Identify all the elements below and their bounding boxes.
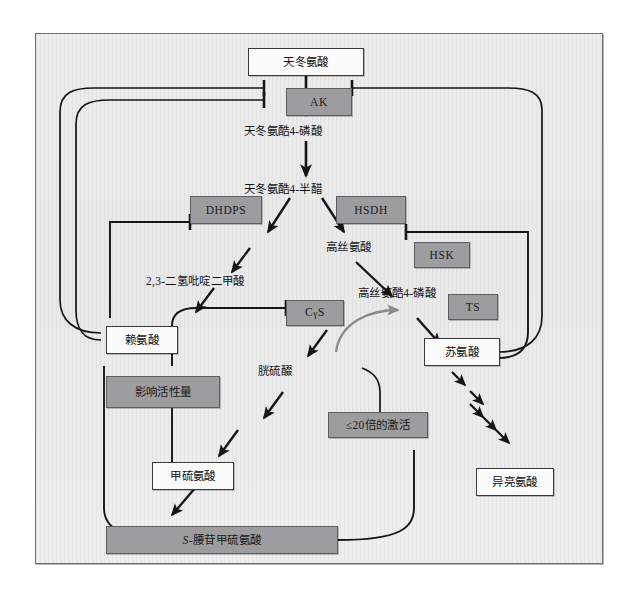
enzyme-ts[interactable]: TS [448,294,498,320]
diagram-canvas: 天冬氨酸 AK 天冬氨酷4-磷酸 天冬氨酷4-半醋 DHDPS HSDH 2,3… [0,0,628,589]
enzyme-dhdps[interactable]: DHDPS [190,196,262,224]
annotation-activity-amount-label: 影响活性量 [135,386,192,398]
annotation-activation-fold[interactable]: ≤20倍的激活 [328,412,428,438]
cgs-suffix: S [318,306,325,318]
enzyme-cgs[interactable]: CγS [286,300,344,326]
intermediate-asp4p: 天冬氨酷4-磷酸 [244,122,322,138]
metabolite-sam-label: S-腰苷甲硫氨酸 [183,534,262,546]
intermediate-hsp: 高丝氨酷4-磷酸 [358,284,436,300]
metabolite-sam[interactable]: S-腰苷甲硫氨酸 [106,526,338,554]
metabolite-threonine-label: 苏氨酸 [445,346,479,358]
intermediate-cystathionine: 胱硫醊 [258,362,292,378]
metabolite-isoleucine-label: 异亮氨酸 [492,476,538,488]
metabolite-lysine-label: 赖氨酸 [125,334,159,346]
enzyme-ak[interactable]: AK [286,88,352,116]
intermediate-asa: 天冬氨酷4-半醋 [244,180,322,196]
enzyme-cgs-label: CγS [305,306,325,320]
sam-italic-prefix: S- [183,534,193,546]
enzyme-hsdh-label: HSDH [354,204,388,216]
enzyme-ak-label: AK [310,96,328,108]
metabolite-threonine[interactable]: 苏氨酸 [424,338,500,366]
metabolite-methionine-label: 甲硫氨酸 [170,470,216,482]
metabolite-methionine[interactable]: 甲硫氨酸 [152,462,234,490]
enzyme-ts-label: TS [466,301,481,313]
metabolite-lysine[interactable]: 赖氨酸 [106,326,178,354]
metabolite-isoleucine[interactable]: 异亮氨酸 [476,468,554,496]
enzyme-hsk[interactable]: HSK [414,242,470,268]
enzyme-dhdps-label: DHDPS [206,204,247,216]
annotation-activation-fold-label: ≤20倍的激活 [346,419,411,431]
cgs-base: C [305,306,313,318]
intermediate-homoserine: 高丝氨酸 [326,238,371,254]
metabolite-aspartate-label: 天冬氨酸 [283,56,329,68]
annotation-activity-amount[interactable]: 影响活性量 [106,376,220,408]
sam-rest: 腰苷甲硫氨酸 [193,534,261,546]
enzyme-hsdh[interactable]: HSDH [336,196,406,224]
intermediate-dhdp: 2,3-二氢吡啶二甲酸 [146,272,245,288]
metabolite-aspartate[interactable]: 天冬氨酸 [248,48,364,76]
enzyme-hsk-label: HSK [430,249,455,261]
